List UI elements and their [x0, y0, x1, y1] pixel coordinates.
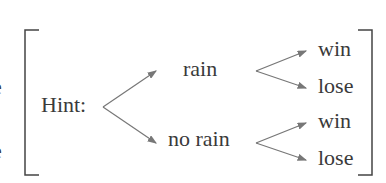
node-norain-win: win [318, 108, 351, 134]
node-norain-lose: lose [318, 145, 353, 171]
right-bracket [358, 30, 372, 175]
node-no-rain: no rain [168, 126, 230, 152]
left-bracket [25, 30, 39, 175]
node-rain-win: win [318, 36, 351, 62]
node-rain-lose: lose [318, 73, 353, 99]
hint-label: Hint: [41, 92, 86, 118]
node-rain: rain [183, 56, 217, 82]
